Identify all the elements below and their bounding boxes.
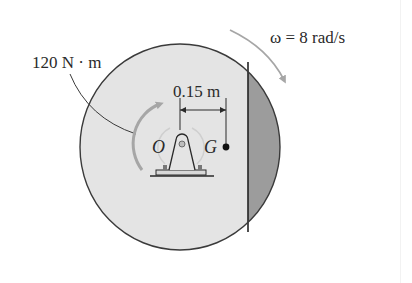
flat-segment	[248, 40, 288, 255]
distance-label: 0.15 m	[173, 82, 220, 101]
moment-label: 120 N · m	[32, 53, 101, 72]
diagram-canvas: 120 N · m ω = 8 rad/s 0.15 m O G	[0, 0, 412, 283]
omega-label: ω = 8 rad/s	[270, 28, 345, 47]
center-of-mass-label-g: G	[204, 137, 217, 157]
disk-diagram: 120 N · m ω = 8 rad/s 0.15 m O G	[0, 0, 412, 283]
pin-label-o: O	[152, 137, 165, 157]
center-of-mass-dot	[223, 144, 230, 151]
page-edge-line	[400, 0, 401, 283]
